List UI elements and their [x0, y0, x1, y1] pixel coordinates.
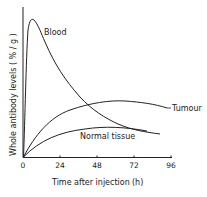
- x-axis-unit: (h): [132, 178, 143, 187]
- chart: 0 24 48 72 96 Time after injection (h) W…: [0, 0, 207, 197]
- series-tumour-line: [24, 101, 168, 157]
- label-normal-tissue: Normal tissue: [80, 132, 135, 141]
- label-blood: Blood: [44, 28, 67, 37]
- x-axis-label: Time after injection: [51, 178, 130, 187]
- x-tick-label: 72: [129, 161, 139, 170]
- x-tick-label: 24: [55, 161, 65, 170]
- x-tick-label: 0: [21, 161, 26, 170]
- y-axis-label: Whole antibody levels ( % / g ): [9, 33, 18, 156]
- label-tumour: Tumour: [171, 104, 203, 113]
- x-tick-label: 48: [92, 161, 102, 170]
- x-tick-label: 96: [166, 161, 176, 170]
